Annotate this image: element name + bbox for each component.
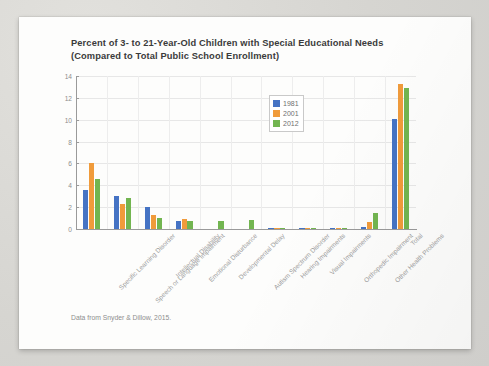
legend-item[interactable]: 1981	[273, 99, 299, 109]
bar-2001[interactable]	[151, 215, 156, 229]
legend-swatch-icon	[273, 100, 280, 107]
y-axis-tick-labels: 02468101214	[48, 76, 72, 229]
plot-area	[76, 76, 416, 229]
y-axis-tick-mark	[76, 120, 79, 121]
y-axis-tick-label: 0	[48, 226, 72, 233]
legend-swatch-icon	[273, 110, 280, 117]
bar-1981[interactable]	[361, 227, 366, 229]
chart-page: Percent of 3- to 21-Year-Old Children wi…	[19, 17, 471, 349]
y-axis-tick-mark	[76, 98, 79, 99]
y-axis-tick-mark	[76, 142, 79, 143]
bar-2012[interactable]	[280, 228, 285, 229]
bar-2012[interactable]	[311, 228, 316, 229]
bar-2012[interactable]	[126, 198, 131, 229]
chart-title: Percent of 3- to 21-Year-Old Children wi…	[71, 37, 431, 62]
chart-title-line-1: Percent of 3- to 21-Year-Old Children wi…	[71, 37, 431, 50]
bar-2012[interactable]	[404, 88, 409, 229]
bar-1981[interactable]	[330, 228, 335, 229]
y-axis-tick-mark	[76, 207, 79, 208]
bar-2012[interactable]	[373, 213, 378, 229]
x-axis-label: Specific Learning Disorder	[118, 232, 177, 291]
y-axis-tick-label: 4	[48, 182, 72, 189]
bar-2001[interactable]	[305, 228, 310, 229]
bar-2012[interactable]	[218, 221, 223, 229]
bar-1981[interactable]	[176, 221, 181, 229]
bar-group[interactable]	[323, 76, 354, 229]
y-axis-tick-mark	[76, 163, 79, 164]
chart-title-line-2: (Compared to Total Public School Enrollm…	[71, 50, 431, 63]
bar-1981[interactable]	[392, 119, 397, 229]
bar-group[interactable]	[354, 76, 385, 229]
y-axis-tick-label: 14	[48, 73, 72, 80]
y-axis-tick-label: 12	[48, 94, 72, 101]
bar-2012[interactable]	[187, 221, 192, 229]
bar-group[interactable]	[200, 76, 231, 229]
bar-2001[interactable]	[398, 84, 403, 229]
legend-swatch-icon	[273, 120, 280, 127]
bar-1981[interactable]	[83, 190, 88, 229]
y-axis-tick-mark	[76, 229, 79, 230]
legend-item[interactable]: 2001	[273, 109, 299, 119]
bar-group[interactable]	[385, 76, 416, 229]
source-note: Data from Snyder & Dillow, 2015.	[71, 314, 171, 321]
bar-group[interactable]	[76, 76, 107, 229]
bar-2001[interactable]	[367, 222, 372, 229]
bar-group[interactable]	[169, 76, 200, 229]
bar-2012[interactable]	[249, 220, 254, 229]
bar-2012[interactable]	[342, 228, 347, 229]
y-axis-tick-label: 8	[48, 138, 72, 145]
y-axis-tick-label: 6	[48, 160, 72, 167]
legend-label: 2012	[283, 120, 299, 127]
bar-2001[interactable]	[89, 163, 94, 229]
bar-group[interactable]	[138, 76, 169, 229]
y-axis-tick-mark	[76, 76, 79, 77]
bar-2001[interactable]	[336, 228, 341, 229]
bar-group[interactable]	[107, 76, 138, 229]
y-axis-tick-mark	[76, 185, 79, 186]
bar-1981[interactable]	[145, 207, 150, 229]
y-axis-tick-label: 2	[48, 204, 72, 211]
legend-label: 1981	[283, 100, 299, 107]
bar-2001[interactable]	[182, 219, 187, 229]
legend-label: 2001	[283, 110, 299, 117]
bar-2001[interactable]	[274, 228, 279, 229]
chart-legend: 198120012012	[269, 95, 304, 132]
bar-1981[interactable]	[268, 228, 273, 229]
bar-2001[interactable]	[120, 204, 125, 229]
y-axis-tick-label: 10	[48, 116, 72, 123]
bar-2012[interactable]	[95, 179, 100, 229]
bar-1981[interactable]	[114, 196, 119, 229]
bar-group[interactable]	[231, 76, 262, 229]
bar-1981[interactable]	[299, 228, 304, 229]
bar-2012[interactable]	[157, 218, 162, 229]
legend-item[interactable]: 2012	[273, 119, 299, 129]
